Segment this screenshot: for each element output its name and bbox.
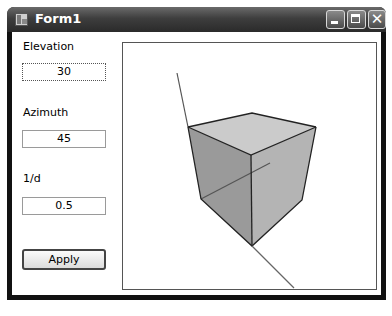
elevation-input[interactable]: 30	[22, 63, 106, 81]
z-axis-line	[177, 73, 188, 127]
maximize-button[interactable]	[347, 10, 366, 29]
inverse-distance-input[interactable]: 0.5	[22, 197, 106, 215]
3d-viewport[interactable]	[122, 42, 377, 290]
azimuth-input[interactable]: 45	[22, 130, 106, 148]
close-icon: ✕	[369, 10, 385, 29]
client-area: Elevation 30 Azimuth 45 1/d 0.5 Apply	[12, 32, 381, 295]
window-title: Form1	[35, 11, 81, 26]
app-icon[interactable]	[15, 13, 28, 26]
elevation-label: Elevation	[23, 40, 74, 53]
inverse-distance-label: 1/d	[23, 172, 41, 185]
y-axis-line	[252, 246, 294, 288]
title-bar[interactable]: Form1 ✕	[7, 7, 386, 32]
apply-button[interactable]: Apply	[22, 249, 106, 270]
close-button[interactable]: ✕	[368, 10, 386, 29]
minimize-button[interactable]	[326, 10, 345, 29]
cube-render	[122, 42, 377, 290]
azimuth-label: Azimuth	[23, 106, 68, 119]
form1-window: Form1 ✕ Elevation 30 Azimuth 45 1/d 0.5 …	[7, 7, 386, 300]
